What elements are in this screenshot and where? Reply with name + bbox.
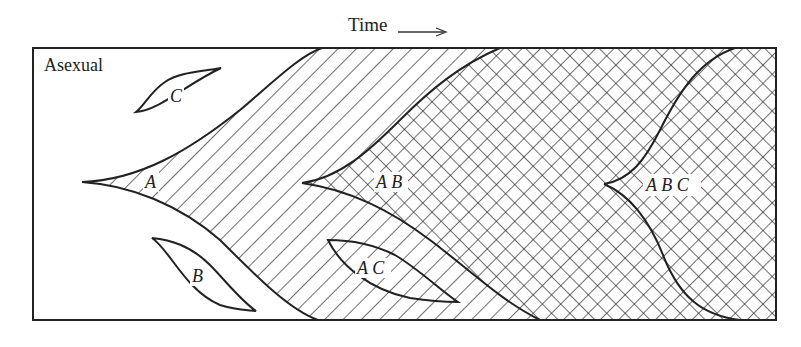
label-c: C <box>170 86 183 106</box>
evolution-diagram: Asexual C A A B B A C A B C <box>0 0 801 347</box>
label-a: A <box>144 172 157 192</box>
label-ab: A B <box>375 172 402 192</box>
asexual-label: Asexual <box>44 55 103 75</box>
label-ac: A C <box>356 258 385 278</box>
label-b: B <box>192 266 203 286</box>
label-abc: A B C <box>645 175 690 195</box>
time-arrow-icon <box>398 28 446 36</box>
